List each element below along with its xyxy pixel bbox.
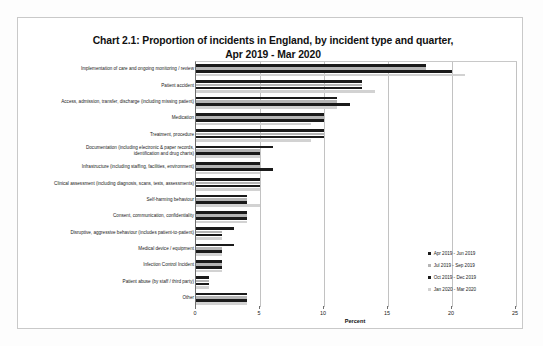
bar-group	[196, 209, 516, 225]
x-tick	[323, 306, 324, 309]
legend-item: Oct 2019 - Dec 2019	[428, 275, 516, 287]
chart-title-line2: Apr 2019 - Mar 2020	[58, 48, 488, 62]
x-tick-label: 0	[194, 310, 197, 316]
bar-group	[196, 225, 516, 241]
bar	[196, 90, 375, 93]
x-tick-label: 25	[512, 310, 518, 316]
category-label: Infrastructure (including staffing, faci…	[19, 164, 194, 170]
bar	[196, 221, 247, 224]
x-axis-title: Percent	[195, 318, 515, 324]
bar	[196, 106, 337, 109]
x-tick	[387, 306, 388, 309]
legend-item: Jul 2019 - Sep 2019	[428, 263, 516, 275]
x-tick	[451, 306, 452, 309]
x-tick-label: 10	[320, 310, 326, 316]
x-tick	[195, 306, 196, 309]
legend-label: Oct 2019 - Dec 2019	[434, 275, 476, 280]
category-label: Clinical assessment (including diagnosis…	[19, 181, 194, 187]
category-label: Infection Control Incident	[19, 262, 194, 268]
legend-item: Apr 2019 - Jun 2019	[428, 251, 516, 263]
bar	[196, 155, 260, 158]
screenshot-frame: Chart 2.1: Proportion of incidents in En…	[0, 0, 543, 346]
bar	[196, 188, 260, 191]
gridline	[516, 62, 517, 307]
legend-swatch	[428, 252, 431, 255]
bar	[196, 286, 209, 289]
bar-group	[196, 78, 516, 94]
legend-label: Apr 2019 - Jun 2019	[434, 251, 476, 256]
legend-swatch	[428, 276, 431, 279]
legend-label: Jul 2019 - Sep 2019	[434, 263, 475, 268]
category-label: Patient abuse (by staff / third party)	[19, 279, 194, 285]
chart-card: Chart 2.1: Proportion of incidents in En…	[17, 17, 523, 329]
legend-item: Jan 2020 - Mar 2020	[428, 287, 516, 299]
bar-group	[196, 193, 516, 209]
category-label: Medication	[19, 115, 194, 121]
category-label: Treatment, procedure	[19, 132, 194, 138]
bar-group	[196, 95, 516, 111]
category-label: Implementation of care and ongoing monit…	[19, 66, 194, 72]
legend-swatch	[428, 288, 431, 291]
x-tick	[515, 306, 516, 309]
legend-label: Jan 2020 - Mar 2020	[434, 287, 476, 292]
chart-legend: Apr 2019 - Jun 2019Jul 2019 - Sep 2019Oc…	[428, 251, 516, 299]
bar	[196, 204, 260, 207]
category-label: Documentation (including electronic & pa…	[19, 145, 194, 157]
chart-title: Chart 2.1: Proportion of incidents in En…	[58, 34, 488, 62]
bar	[196, 253, 222, 256]
x-tick	[259, 306, 260, 309]
bar-group	[196, 111, 516, 127]
x-tick-label: 20	[448, 310, 454, 316]
bar-group	[196, 62, 516, 78]
bar	[196, 302, 247, 305]
bar-group	[196, 176, 516, 192]
category-label: Consent, communication, confidentiality	[19, 213, 194, 219]
category-label: Medical device / equipment	[19, 246, 194, 252]
bar-group	[196, 144, 516, 160]
bar-group	[196, 160, 516, 176]
category-label: Access, admission, transfer, discharge (…	[19, 99, 194, 105]
x-tick-label: 15	[384, 310, 390, 316]
category-axis-labels: Implementation of care and ongoing monit…	[18, 61, 194, 306]
bar	[196, 172, 260, 175]
bar	[196, 139, 311, 142]
bar	[196, 123, 311, 126]
bar	[196, 237, 222, 240]
bar-group	[196, 127, 516, 143]
category-label: Disruptive, aggressive behaviour (includ…	[19, 230, 194, 236]
chart-title-line1: Chart 2.1: Proportion of incidents in En…	[58, 34, 488, 48]
bar	[196, 74, 465, 77]
legend-swatch	[428, 264, 431, 267]
bar	[196, 270, 222, 273]
x-tick-label: 5	[258, 310, 261, 316]
category-label: Other	[19, 295, 194, 301]
category-label: Patient accident	[19, 83, 194, 89]
category-label: Self-harming behaviour	[19, 197, 194, 203]
